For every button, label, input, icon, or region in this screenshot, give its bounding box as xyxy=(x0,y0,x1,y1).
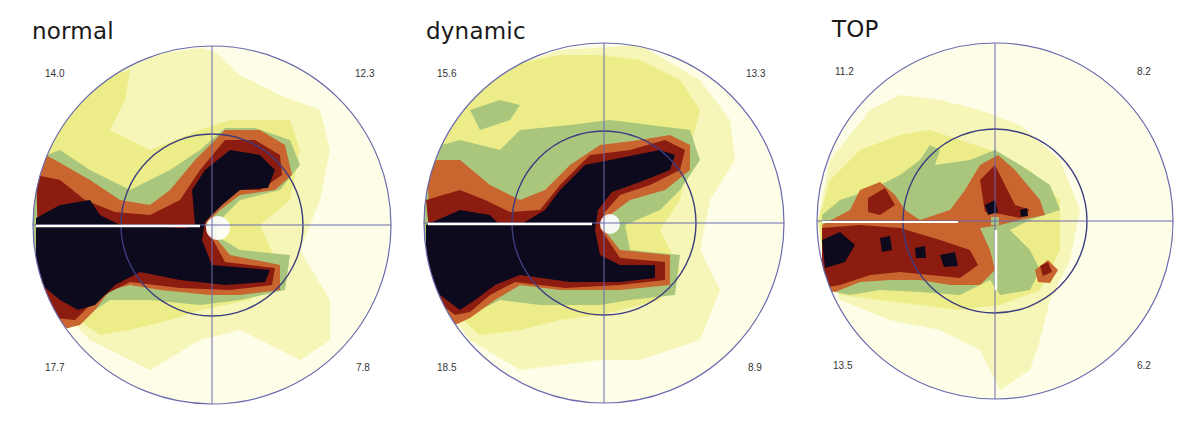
chart-title: TOP xyxy=(832,16,879,42)
quadrant-lower-left: 13.5 xyxy=(833,360,852,371)
quadrant-upper-right: 8.2 xyxy=(1137,66,1151,77)
heatmap-top xyxy=(0,0,1199,428)
quadrant-lower-right: 6.2 xyxy=(1137,360,1151,371)
quadrant-upper-left: 11.2 xyxy=(835,66,854,77)
panel-top: TOP 11.2 8.2 13.5 6.2 xyxy=(0,0,1199,428)
